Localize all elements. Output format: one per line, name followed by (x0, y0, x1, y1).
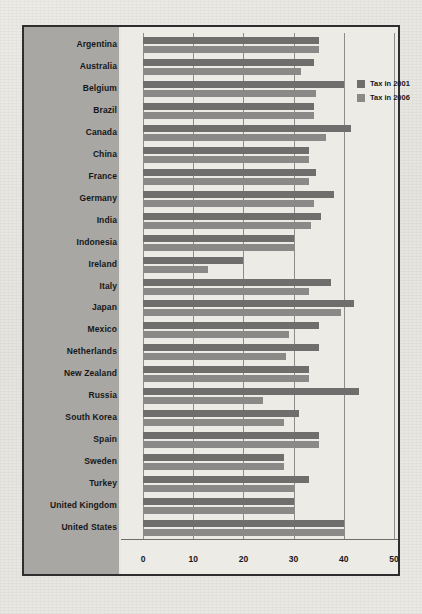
x-tick-label: 20 (239, 554, 248, 564)
bar-turkey-2006 (143, 485, 294, 492)
category-label-france: France (29, 171, 117, 181)
x-tick-label: 50 (389, 554, 398, 564)
bar-mexico-2006 (143, 331, 289, 338)
bar-row (121, 279, 398, 301)
category-label-united-states: United States (29, 522, 117, 532)
category-label-sweden: Sweden (29, 456, 117, 466)
bar-turkey-2001 (143, 476, 309, 483)
bar-row (121, 300, 398, 322)
bar-china-2006 (143, 156, 309, 163)
bar-spain-2001 (143, 432, 319, 439)
legend-label-2001: Tax in 2001 (370, 79, 410, 88)
bar-sweden-2006 (143, 463, 284, 470)
bar-indonesia-2001 (143, 235, 294, 242)
bar-belgium-2006 (143, 90, 316, 97)
bar-row (121, 520, 398, 542)
bar-italy-2001 (143, 279, 331, 286)
bar-indonesia-2006 (143, 244, 294, 251)
bar-netherlands-2006 (143, 353, 286, 360)
category-label-indonesia: Indonesia (29, 237, 117, 247)
chart-frame: 01020304050 Tax in 2001 Tax in 2006 Arge… (22, 25, 400, 576)
category-label-belgium: Belgium (29, 83, 117, 93)
legend-item-2006: Tax in 2006 (357, 93, 410, 102)
bar-japan-2006 (143, 309, 341, 316)
category-label-japan: Japan (29, 302, 117, 312)
bar-france-2001 (143, 169, 316, 176)
legend: Tax in 2001 Tax in 2006 (357, 79, 410, 107)
plot-area: 01020304050 Tax in 2001 Tax in 2006 (121, 27, 398, 574)
category-label-ireland: Ireland (29, 259, 117, 269)
bar-row (121, 476, 398, 498)
bar-united-states-2006 (143, 529, 344, 536)
bar-row (121, 147, 398, 169)
category-label-india: India (29, 215, 117, 225)
category-label-italy: Italy (29, 281, 117, 291)
bar-row (121, 191, 398, 213)
bar-row (121, 388, 398, 410)
legend-swatch-icon-2006 (357, 94, 365, 102)
x-tick-label: 30 (289, 554, 298, 564)
bar-brazil-2006 (143, 112, 314, 119)
bar-row (121, 213, 398, 235)
bar-germany-2001 (143, 191, 334, 198)
category-label-australia: Australia (29, 61, 117, 71)
bar-row (121, 366, 398, 388)
bar-canada-2006 (143, 134, 326, 141)
category-label-germany: Germany (29, 193, 117, 203)
category-label-argentina: Argentina (29, 39, 117, 49)
category-label-china: China (29, 149, 117, 159)
category-label-spain: Spain (29, 434, 117, 444)
bar-germany-2006 (143, 200, 314, 207)
legend-swatch-icon-2001 (357, 80, 365, 88)
bar-australia-2006 (143, 68, 301, 75)
category-label-new-zealand: New Zealand (29, 368, 117, 378)
bar-south-korea-2001 (143, 410, 299, 417)
bar-united-kingdom-2001 (143, 498, 294, 505)
bar-belgium-2001 (143, 81, 344, 88)
bar-new-zealand-2006 (143, 375, 309, 382)
category-label-brazil: Brazil (29, 105, 117, 115)
category-label-south-korea: South Korea (29, 412, 117, 422)
bar-row (121, 125, 398, 147)
bar-canada-2001 (143, 125, 351, 132)
category-label-mexico: Mexico (29, 324, 117, 334)
bar-ireland-2001 (143, 257, 243, 264)
bar-row (121, 235, 398, 257)
bar-united-kingdom-2006 (143, 507, 294, 514)
bar-row (121, 257, 398, 279)
category-label-russia: Russia (29, 390, 117, 400)
bar-china-2001 (143, 147, 309, 154)
bar-netherlands-2001 (143, 344, 319, 351)
bar-row (121, 432, 398, 454)
bar-row (121, 37, 398, 59)
bar-new-zealand-2001 (143, 366, 309, 373)
bar-mexico-2001 (143, 322, 319, 329)
bar-row (121, 322, 398, 344)
bar-row (121, 344, 398, 366)
bar-spain-2006 (143, 441, 319, 448)
bar-united-states-2001 (143, 520, 344, 527)
bar-argentina-2001 (143, 37, 319, 44)
bar-australia-2001 (143, 59, 314, 66)
category-label-netherlands: Netherlands (29, 346, 117, 356)
category-label-turkey: Turkey (29, 478, 117, 488)
bar-row (121, 169, 398, 191)
category-label-united-kingdom: United Kingdom (29, 500, 117, 510)
bar-ireland-2006 (143, 266, 208, 273)
bar-sweden-2001 (143, 454, 284, 461)
legend-label-2006: Tax in 2006 (370, 93, 410, 102)
bar-argentina-2006 (143, 46, 319, 53)
bar-india-2006 (143, 222, 311, 229)
category-label-canada: Canada (29, 127, 117, 137)
legend-item-2001: Tax in 2001 (357, 79, 410, 88)
bar-row (121, 410, 398, 432)
bar-japan-2001 (143, 300, 354, 307)
bar-row (121, 454, 398, 476)
bar-russia-2001 (143, 388, 359, 395)
bar-south-korea-2006 (143, 419, 284, 426)
bar-france-2006 (143, 178, 309, 185)
x-tick-label: 40 (339, 554, 348, 564)
bar-brazil-2001 (143, 103, 314, 110)
bar-russia-2006 (143, 397, 263, 404)
bar-row (121, 498, 398, 520)
